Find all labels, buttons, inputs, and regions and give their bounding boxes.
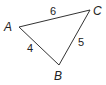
vertex-label-a: A [3,20,12,34]
side-length-ac: 6 [50,5,56,17]
vertex-label-b: B [54,69,62,83]
side-length-ab: 4 [27,42,33,54]
triangle-diagram: A B C 6 4 5 [0,0,106,85]
side-length-bc: 5 [78,36,84,48]
vertex-label-c: C [93,4,102,18]
